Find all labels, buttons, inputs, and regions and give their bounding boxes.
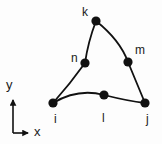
node-n	[80, 58, 89, 67]
node-label-i: i	[54, 113, 57, 125]
node-label-l: l	[102, 112, 105, 124]
x-axis-label: x	[34, 125, 41, 138]
node-label-m: m	[135, 44, 145, 56]
node-l	[99, 90, 108, 99]
node-j	[140, 98, 149, 107]
node-label-k: k	[82, 6, 88, 18]
element-diagram-figure: i j k l m n x y	[0, 0, 162, 144]
node-m	[123, 57, 132, 66]
diagram-canvas	[0, 0, 162, 144]
node-label-j: j	[146, 113, 149, 125]
node-i	[48, 98, 57, 107]
node-k	[91, 16, 100, 25]
node-label-n: n	[71, 52, 78, 64]
y-axis-label: y	[6, 78, 13, 91]
axes-group	[13, 100, 28, 133]
edge-i-l-j	[53, 93, 145, 103]
